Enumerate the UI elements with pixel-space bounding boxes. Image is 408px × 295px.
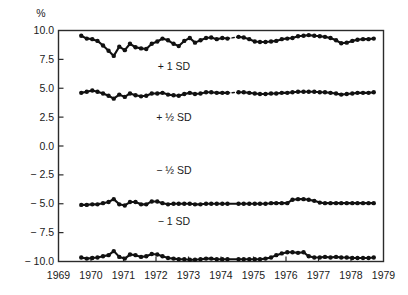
data-point-marker [123,203,127,207]
data-point-marker [307,33,311,37]
data-point-marker [193,202,197,206]
data-point-marker [307,198,311,202]
data-point-marker [253,91,257,95]
data-point-marker [334,255,338,259]
series-annotation-label: + 1 SD [158,60,191,72]
data-point-marker [90,88,94,92]
data-point-marker [372,201,376,205]
data-point-marker [296,197,300,201]
data-point-marker [128,252,132,256]
data-point-marker [220,91,224,95]
data-point-marker [204,36,208,40]
data-point-marker [171,42,175,46]
data-point-marker [269,91,273,95]
data-point-marker [372,90,376,94]
data-point-marker [285,250,289,254]
data-point-marker [366,91,370,95]
data-point-marker [236,202,240,206]
data-point-marker [361,37,365,41]
data-point-marker [258,40,262,44]
x-tick-label: 1971 [112,269,136,281]
data-point-marker [301,90,305,94]
data-point-marker [323,201,327,205]
data-point-marker [323,90,327,94]
data-point-marker [215,202,219,206]
data-point-marker [204,256,208,260]
data-point-marker [323,35,327,39]
data-point-marker [144,94,148,98]
y-tick-label: 5.0 [39,82,54,94]
data-point-marker [188,258,192,262]
data-point-marker [95,39,99,43]
x-tick-label: 1976 [274,269,298,281]
data-point-marker [350,91,354,95]
data-point-marker [361,201,365,205]
data-point-marker [296,34,300,38]
data-point-marker [209,35,213,39]
x-tick-label: 1979 [372,269,396,281]
data-point-marker [166,202,170,206]
data-point-marker [106,200,110,204]
data-point-marker [160,201,164,205]
data-point-marker [150,199,154,203]
y-tick-label: − 5.0 [30,197,54,209]
data-point-marker [334,38,338,42]
data-point-marker [123,48,127,52]
data-point-marker [280,37,284,41]
data-point-marker [90,37,94,41]
x-tick-label: 1973 [177,269,201,281]
data-point-marker [188,36,192,40]
data-point-marker [85,203,89,207]
data-point-marker [253,257,257,261]
data-point-marker [258,92,262,96]
data-point-marker [345,255,349,259]
data-point-marker [193,40,197,44]
data-point-marker [269,255,273,259]
data-point-marker [350,256,354,260]
data-point-marker [112,96,116,100]
data-point-marker [296,251,300,255]
series-annotation-label: − ½ SD [156,164,192,176]
data-point-marker [339,255,343,259]
data-point-marker [247,257,251,261]
data-point-marker [339,92,343,96]
x-tick-label: 1975 [242,269,266,281]
y-tick-label: 2.5 [39,111,54,123]
data-point-marker [274,91,278,95]
data-point-marker [177,257,181,261]
data-point-marker [366,201,370,205]
data-point-marker [350,201,354,205]
data-point-marker [85,36,89,40]
data-point-marker [285,36,289,40]
data-point-marker [79,91,83,95]
data-point-marker [144,254,148,258]
data-point-marker [339,41,343,45]
data-point-marker [253,39,257,43]
data-point-marker [166,256,170,260]
data-point-marker [79,203,83,207]
data-point-marker [128,200,132,204]
data-point-marker [301,34,305,38]
data-point-marker [198,202,202,206]
data-point-marker [182,39,186,43]
y-tick-label: 10.0 [34,24,55,36]
data-point-marker [128,91,132,95]
data-point-marker [160,91,164,95]
data-point-marker [318,34,322,38]
data-point-marker [182,202,186,206]
data-point-marker [215,257,219,261]
data-point-marker [209,256,213,260]
data-point-marker [123,256,127,260]
data-point-marker [85,90,89,94]
data-point-marker [285,91,289,95]
data-point-marker [242,257,246,261]
data-point-marker [95,202,99,206]
data-point-marker [220,202,224,206]
x-tick-label: 1974 [209,269,233,281]
data-point-marker [355,201,359,205]
data-point-marker [188,91,192,95]
series-annotation-label: + ½ SD [156,111,192,123]
data-point-marker [79,34,83,38]
data-point-marker [144,202,148,206]
data-point-marker [318,255,322,259]
